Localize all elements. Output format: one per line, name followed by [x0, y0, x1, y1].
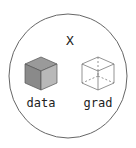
grad-cube-icon: [82, 57, 114, 90]
grad-label: grad: [78, 96, 118, 110]
diagram-canvas: [0, 0, 136, 148]
data-cube-icon: [25, 57, 57, 90]
variable-name-label: X: [62, 33, 78, 48]
data-label: data: [21, 96, 61, 110]
